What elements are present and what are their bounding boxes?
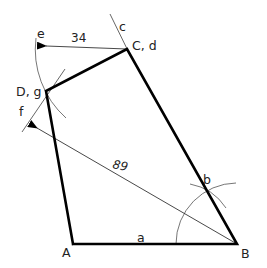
construction-label-e: e	[37, 26, 45, 41]
dimension-line-34	[46, 46, 127, 49]
construction-label-b: b	[203, 172, 211, 187]
construction-arc-b	[190, 184, 226, 208]
construction-line-f	[22, 69, 65, 132]
construction-label-c: c	[119, 19, 126, 34]
point-label-b: B	[241, 246, 250, 261]
point-label-a: A	[62, 245, 71, 260]
point-label-d: D, g	[16, 84, 42, 99]
construction-label-a: a	[137, 230, 145, 245]
construction-label-f: f	[19, 104, 24, 119]
dimension-label-34: 34	[71, 31, 86, 45]
dimension-label-89: 89	[111, 157, 129, 174]
quadrilateral-outline	[46, 49, 237, 244]
quadrilateral-construction-diagram: A B C, d D, g a b c e f 34 89	[0, 0, 267, 268]
point-label-c: C, d	[132, 38, 157, 53]
